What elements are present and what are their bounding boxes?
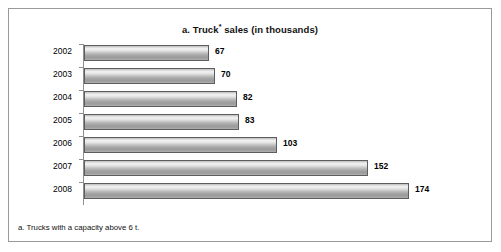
axis-tick [79,90,83,91]
bar-row: 2004 82 [9,88,493,111]
category-label-2004: 2004 [53,92,72,102]
axis-tick [79,113,83,114]
category-label-2008: 2008 [53,184,72,194]
bar-2007 [84,160,368,176]
bar-2006 [84,137,277,153]
chart-title-suffix: sales (in thousands) [221,24,318,35]
bar-row: 2003 70 [9,65,493,88]
bar-value-2008: 174 [415,184,429,194]
axis-tick [79,67,83,68]
chart-footnote: a. Trucks with a capacity above 6 t. [18,223,139,232]
bar-value-2007: 152 [374,161,388,171]
bar-value-2004: 82 [243,92,252,102]
bar-row: 2007 152 [9,157,493,180]
category-label-2005: 2005 [53,115,72,125]
category-label-2002: 2002 [53,46,72,56]
axis-tick [79,182,83,183]
category-label-2006: 2006 [53,138,72,148]
chart-figure: a. Truck* sales (in thousands) 2002 67 2… [8,8,492,242]
chart-title-prefix: a. Truck [182,24,219,35]
bar-row: 2006 103 [9,134,493,157]
plot-area: 2002 67 2003 70 2004 82 2005 83 2006 10 [9,42,493,207]
bar-2004 [84,91,237,107]
bar-value-2002: 67 [215,46,224,56]
bar-row: 2005 83 [9,111,493,134]
category-label-2003: 2003 [53,69,72,79]
chart-title: a. Truck* sales (in thousands) [9,23,491,35]
bar-2003 [84,68,215,84]
bar-2008 [84,183,409,199]
bar-2005 [84,114,239,130]
bar-row: 2008 174 [9,180,493,203]
bar-value-2003: 70 [221,69,230,79]
bar-value-2005: 83 [245,115,254,125]
bar-value-2006: 103 [283,138,297,148]
axis-tick [79,136,83,137]
bar-2002 [84,45,209,61]
category-label-2007: 2007 [53,161,72,171]
axis-tick [79,44,83,45]
axis-tick [79,159,83,160]
bar-row: 2002 67 [9,42,493,65]
